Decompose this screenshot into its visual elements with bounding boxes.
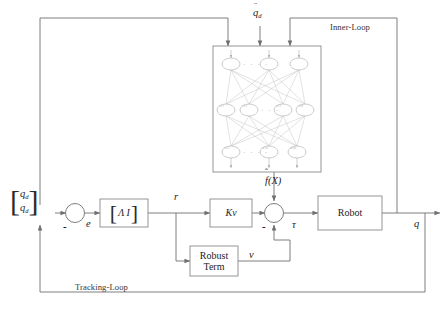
signal-label-filtered-error: r	[174, 192, 178, 203]
nn-output-layer-ellipsis: · · · ·	[243, 149, 269, 157]
tracking-loop-label: Tracking-Loop	[75, 283, 128, 292]
kv-subscript: v	[232, 207, 236, 218]
robust-term-label: Robust Term	[190, 246, 238, 276]
nn-input-layer-ellipsis: · · · ·	[243, 61, 269, 69]
nn-node-label-hidden-3: v21	[276, 104, 281, 108]
desired-state-vector: [ qd ̇qd ]	[10, 186, 39, 216]
torque-summing-junction	[265, 204, 284, 223]
gain-left-bracket: [	[110, 202, 117, 224]
nn-node-label-output-1: w11	[224, 146, 230, 150]
nn-node-input-1	[222, 58, 240, 70]
signal-label-nn-output: ̂f(X)	[265, 176, 281, 187]
vector-row-qd-dot: ̇qd	[20, 202, 29, 214]
signal-label-torque: τ	[292, 220, 296, 231]
block-diagram-canvas: [ qd ̇qd ] - e [ Λ I ] r Kv Robust Term …	[0, 0, 444, 316]
torque-junction-minus-sign: -	[262, 221, 266, 232]
robust-term-line-1: Robust	[200, 250, 228, 262]
kv-base: K	[225, 207, 232, 219]
nn-node-label-hidden-1: v11	[219, 104, 224, 108]
nn-node-label-hidden-4: vnh	[298, 104, 303, 108]
nn-node-label-output-3: wnh	[290, 146, 296, 150]
nn-hidden-layer-ellipsis: · · ·	[261, 107, 280, 115]
nn-node-input-3	[290, 58, 308, 70]
signal-label-desired-accel: ̈qd	[253, 8, 262, 19]
signal-label-output: q	[414, 219, 419, 230]
robust-term-line-2: Term	[204, 261, 225, 273]
nn-node-label-output-2: w1h	[262, 146, 268, 150]
kv-label: Kv	[210, 199, 252, 227]
error-junction-minus-sign: -	[63, 221, 67, 232]
signal-label-error: e	[86, 219, 91, 230]
signal-label-robust: v	[249, 250, 254, 261]
gain-matrix-label: [ Λ I ]	[100, 199, 148, 227]
nn-node-label-hidden-2: v12	[242, 104, 247, 108]
error-summing-junction	[66, 204, 85, 223]
robot-block-label: Robot	[318, 196, 382, 230]
gain-matrix-value: Λ I	[117, 207, 131, 219]
inner-loop-label: Inner-Loop	[330, 23, 370, 32]
vector-right-bracket: ]	[29, 186, 39, 216]
vector-left-bracket: [	[10, 186, 20, 216]
gain-right-bracket: ]	[131, 202, 138, 224]
